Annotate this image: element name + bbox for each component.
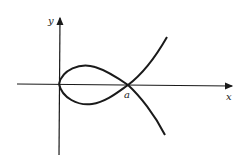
x-axis-label: x bbox=[226, 91, 232, 102]
diagram-canvas: y x a bbox=[0, 0, 241, 160]
crossing-point-label: a bbox=[124, 89, 130, 100]
curve-upper-branch bbox=[59, 37, 167, 85]
y-axis-label: y bbox=[47, 15, 54, 26]
x-axis bbox=[17, 84, 232, 86]
curve-lower-branch bbox=[59, 84, 165, 135]
